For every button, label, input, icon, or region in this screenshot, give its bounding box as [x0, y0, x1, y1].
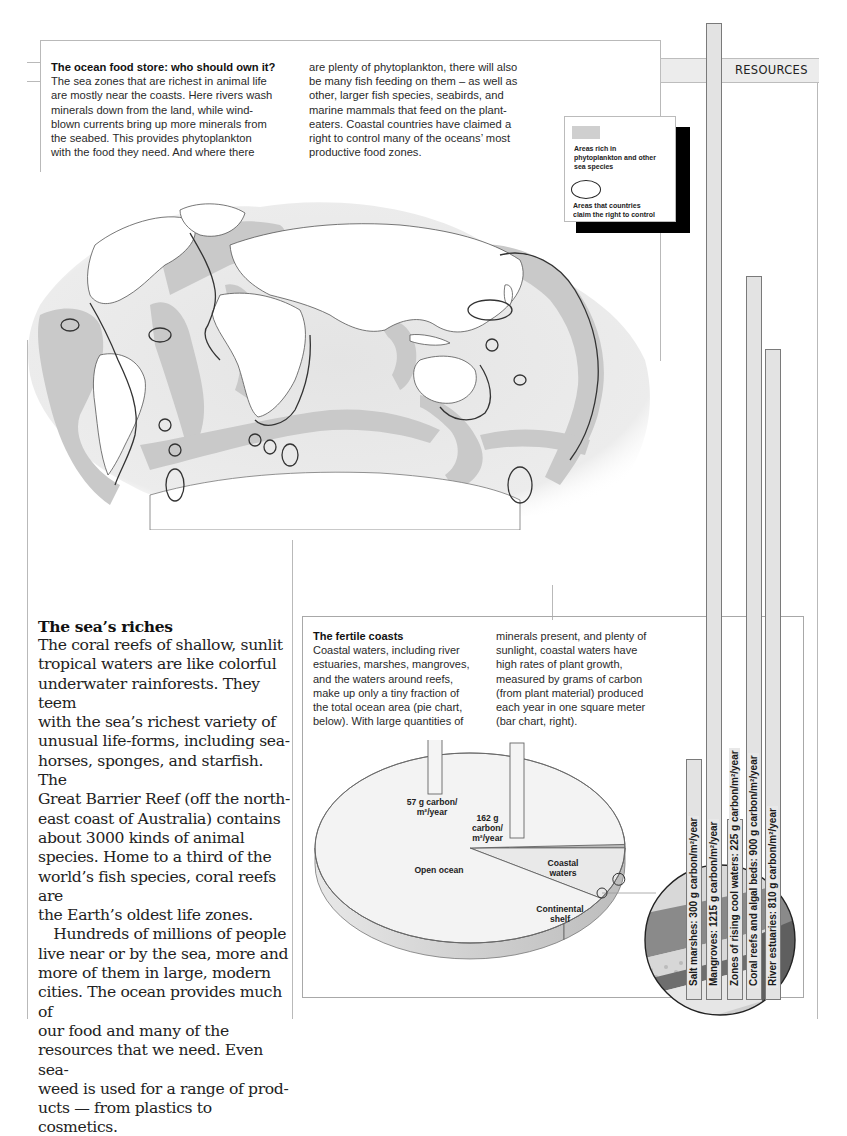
legend-swatch-rich-area: [572, 126, 600, 139]
text-line: (bar chart, right).: [496, 714, 666, 728]
text-line: right to control many of the oceans’ mos…: [309, 131, 554, 145]
text-line: minerals down from the land, while wind-: [51, 103, 291, 117]
fertile-coasts-col2: minerals present, and plenty of sunlight…: [496, 629, 666, 728]
text-line: sunlight, coastal waters have: [496, 643, 666, 657]
text-line: more of them in large, modern: [38, 964, 294, 983]
text-line: the seabed. This provides phytoplankton: [51, 131, 291, 145]
text-line: the Earth’s oldest life zones.: [38, 906, 294, 925]
seas-riches-section: The sea’s riches The coral reefs of shal…: [38, 617, 294, 1136]
text-line: Great Barrier Reef (off the north-: [38, 790, 294, 809]
text-line: and the waters around reefs,: [313, 672, 498, 686]
text-line: horses, sponges, and starfish. The: [38, 752, 294, 791]
text-line: minerals present, and plenty of: [496, 629, 666, 643]
pie-label-open-ocean-productivity: 57 g carbon/ m²/year: [402, 797, 462, 817]
ocean-food-store-col1: The ocean food store: who should own it?…: [51, 60, 291, 159]
text-line: make up only a tiny fraction of: [313, 686, 498, 700]
map-legend: Areas rich in phytoplankton and other se…: [564, 116, 676, 222]
text-line: ucts — from plastics to cosmetics.: [38, 1099, 294, 1136]
text-line: be many fish feeding on them – as well a…: [309, 74, 554, 88]
text-line: The sea zones that are richest in animal…: [51, 74, 291, 88]
bar-label: Salt marshes: 300 g carbon/m²/year: [688, 816, 699, 988]
text-line: world’s fish species, coral reefs are: [38, 868, 294, 907]
frame-left-stub: [27, 62, 41, 63]
text-line: are mostly near the coasts. Here rivers …: [51, 88, 291, 102]
text-line: underwater rainforests. They teem: [38, 675, 294, 714]
world-map: [0, 185, 700, 530]
section-tab-label: RESOURCES: [735, 63, 808, 77]
text-line: (from plant material) produced: [496, 686, 666, 700]
legend-label-claimed-area: Areas that countries claim the right to …: [573, 201, 655, 219]
japan: [504, 285, 512, 305]
text-line: each year in one square meter: [496, 700, 666, 714]
bar-label: Coral reefs and algal beds: 900 g carbon…: [748, 753, 759, 988]
legend-oval-icon: [571, 180, 601, 199]
frame-top-line: [40, 40, 660, 41]
text-line: Hundreds of millions of people: [38, 925, 294, 944]
text-line: live near or by the sea, more and: [38, 945, 294, 964]
text-line: the total ocean area (pie chart,: [313, 700, 498, 714]
fertile-coasts-title: The fertile coasts: [313, 629, 498, 643]
pie-slice-label-coastal-waters: Coastalwaters: [538, 858, 588, 878]
ocean-food-store-title: The ocean food store: who should own it?: [51, 60, 291, 74]
text-line: with the food they need. And where there: [51, 145, 291, 159]
frame-left-stub2: [27, 81, 41, 82]
pie-slice-label-open-ocean: Open ocean: [404, 865, 474, 875]
text-line: about 3000 kinds of animal: [38, 829, 294, 848]
bar-label: Zones of rising cool waters: 225 g carbo…: [729, 748, 740, 988]
text-line: high rates of plant growth,: [496, 657, 666, 671]
pie-label-shelf-productivity: 162 g carbon/ m²/year: [465, 813, 510, 843]
frame-right-vertical-line: [552, 585, 553, 620]
text-line: The coral reefs of shallow, sunlit: [38, 636, 294, 655]
text-line: weed is used for a range of prod-: [38, 1080, 294, 1099]
fertile-coasts-col1: The fertile coasts Coastal waters, inclu…: [313, 629, 498, 728]
bar-label: River estuaries: 810 g carbon/m²/year: [767, 806, 778, 988]
text-line: marine mammals that feed on the plant-: [309, 103, 554, 117]
text-line: unusual life-forms, including sea-: [38, 732, 294, 751]
text-line: eaters. Coastal countries have claimed a: [309, 117, 554, 131]
pie-slice-label-continental-shelf: Continentalshelf: [530, 904, 590, 924]
ocean-food-store-col2: are plenty of phytoplankton, there will …: [309, 60, 554, 159]
text-line: cities. The ocean provides much of: [38, 983, 294, 1022]
frame-page-right-line: [817, 81, 818, 1019]
text-line: Coastal waters, including river: [313, 643, 498, 657]
legend-label-rich-area: Areas rich in phytoplankton and other se…: [574, 144, 656, 172]
text-line: tropical waters are like colorful: [38, 655, 294, 674]
seas-riches-body: The coral reefs of shallow, sunlittropic…: [38, 636, 294, 1136]
text-line: our food and many of the: [38, 1022, 294, 1041]
text-line: species. Home to a third of the: [38, 848, 294, 867]
text-line: resources that we need. Even sea-: [38, 1041, 294, 1080]
text-line: measured by grams of carbon: [496, 672, 666, 686]
text-line: below). With large quantities of: [313, 714, 498, 728]
text-line: other, larger fish species, seabirds, an…: [309, 88, 554, 102]
text-line: estuaries, marshes, mangroves,: [313, 657, 498, 671]
text-line: with the sea’s richest variety of: [38, 713, 294, 732]
text-line: are plenty of phytoplankton, there will …: [309, 60, 554, 74]
bar-label: Mangroves: 1215 g carbon/m²/year: [708, 819, 719, 988]
text-line: east coast of Australia) contains: [38, 810, 294, 829]
frame-left-line: [40, 40, 41, 172]
pie-bar-open-ocean: [428, 740, 442, 794]
text-line: blown currents bring up more minerals fr…: [51, 117, 291, 131]
text-line: productive food zones.: [309, 145, 554, 159]
seas-riches-title: The sea’s riches: [38, 617, 294, 636]
pie-bar-continental-shelf: [510, 743, 524, 838]
